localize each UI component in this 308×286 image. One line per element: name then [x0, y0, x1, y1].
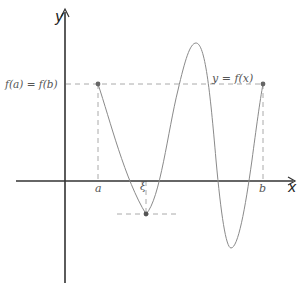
label-fa-eq-fb: f(a) = f(b)	[4, 78, 58, 90]
point-xi	[144, 212, 149, 217]
axes	[16, 12, 293, 283]
label-a: a	[95, 182, 102, 195]
x-axis-label: x	[287, 179, 297, 195]
label-b: b	[259, 182, 266, 195]
point-a	[96, 82, 101, 87]
label-xi: ξ	[140, 180, 147, 193]
label-curve: y = f(x)	[211, 72, 253, 85]
rolle-diagram: y x a b ξ f(a) = f(b) y = f(x)	[0, 0, 308, 286]
y-axis-label: y	[54, 8, 65, 26]
point-b	[261, 82, 266, 87]
